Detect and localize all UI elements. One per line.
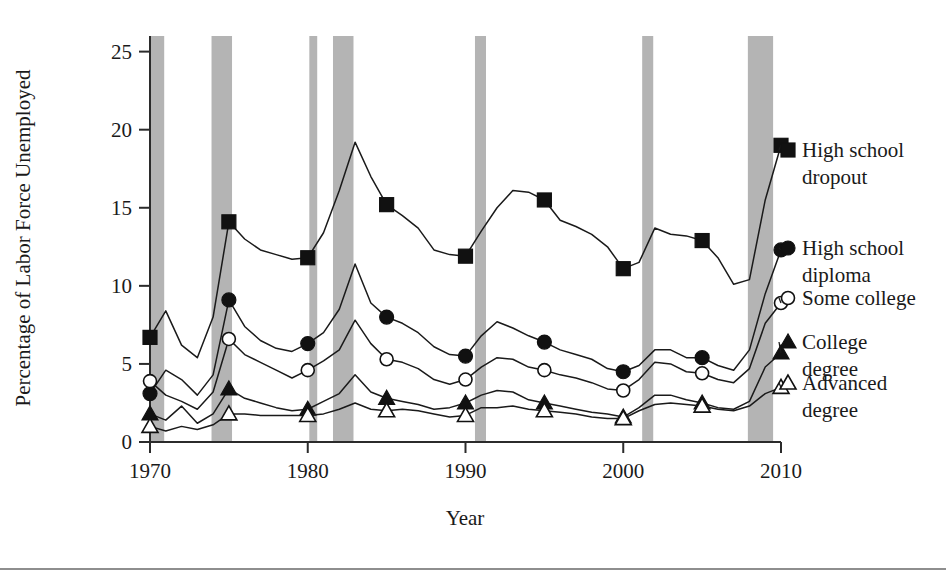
series-marker [380, 353, 393, 366]
y-tick-label: 15 [111, 196, 132, 220]
y-tick-label: 25 [111, 40, 132, 64]
legend-marker [782, 292, 795, 305]
recession-band [642, 36, 653, 442]
legend-marker [780, 334, 796, 348]
series-marker [222, 293, 236, 307]
data-series [142, 379, 789, 432]
legend-text-group: High schooldropoutHigh schooldiplomaSome… [802, 138, 916, 422]
series-marker [537, 193, 551, 207]
x-tick-label: 1980 [287, 459, 329, 483]
series-marker [301, 364, 314, 377]
series-marker [143, 330, 157, 344]
series-marker [459, 349, 473, 363]
series-marker [616, 262, 630, 276]
legend-label: Advanced [802, 371, 888, 395]
y-tick-label: 0 [122, 430, 133, 454]
data-series [143, 138, 788, 357]
unemployment-by-education-line-chart: 0510152025 19701980199020002010 Percenta… [0, 0, 946, 573]
legend-marker [781, 241, 795, 255]
series-marker [616, 365, 630, 379]
x-axis-title: Year [446, 506, 485, 530]
legend-label: College [802, 330, 867, 354]
series-marker [538, 364, 551, 377]
x-tick-label: 1970 [129, 459, 171, 483]
figure-container: 0510152025 19701980199020002010 Percenta… [0, 0, 946, 573]
series-marker [537, 335, 551, 349]
y-axis-title: Percentage of Labor Force Unemployed [11, 69, 35, 407]
y-tick-label: 5 [122, 352, 133, 376]
legend-label: High school [802, 236, 904, 260]
recession-band [748, 36, 773, 442]
x-tick-group: 19701980199020002010 [129, 442, 802, 483]
legend-label: degree [802, 398, 858, 422]
legend-label: dropout [802, 165, 867, 189]
series-marker [144, 375, 157, 388]
series-marker [617, 384, 630, 397]
series-marker [695, 234, 709, 248]
series-marker [301, 251, 315, 265]
legend-label: Some college [802, 286, 916, 310]
y-tick-label: 10 [111, 274, 132, 298]
series-marker [380, 310, 394, 324]
series-marker [301, 337, 315, 351]
legend-label: High school [802, 138, 904, 162]
series-marker [695, 351, 709, 365]
legend-label: diploma [802, 263, 872, 287]
series-marker [222, 332, 235, 345]
series-marker [696, 367, 709, 380]
series-marker [459, 249, 473, 263]
y-tick-label: 20 [111, 118, 132, 142]
series-marker [222, 215, 236, 229]
series-marker [459, 373, 472, 386]
x-tick-label: 2000 [602, 459, 644, 483]
series-marker [380, 198, 394, 212]
series-group [142, 138, 789, 432]
series-marker [143, 387, 157, 401]
figure-bottom-rule [0, 568, 946, 570]
series-marker [615, 411, 631, 425]
recession-band [309, 36, 317, 442]
x-tick-label: 2010 [760, 459, 802, 483]
x-tick-label: 1990 [445, 459, 487, 483]
legend-marker [781, 143, 795, 157]
